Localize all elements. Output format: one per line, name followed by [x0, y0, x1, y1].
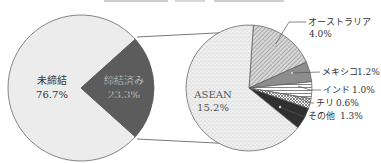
- pie-of-pie-chart: 未締結 76.7% 締結済み 23.3% ASEAN 15.2% オーストラリア…: [0, 0, 381, 163]
- label-australia-value: 4.0%: [309, 29, 332, 39]
- label-mexico: メキシコ 1.2%: [322, 67, 380, 77]
- svg-text:1.0%: 1.0%: [352, 85, 375, 95]
- title-remnant: [104, 0, 284, 2]
- svg-text:メキシコ: メキシコ: [322, 67, 358, 77]
- breakdown-pie: [186, 25, 312, 151]
- svg-text:インド: インド: [323, 85, 350, 95]
- svg-text:0.6%: 0.6%: [336, 98, 359, 108]
- label-australia-name: オーストラリア: [308, 17, 371, 27]
- label-unconcluded-value: 76.7%: [36, 89, 68, 100]
- svg-text:その他: その他: [308, 110, 335, 121]
- main-pie: [8, 15, 154, 161]
- label-unconcluded-name: 未締結: [37, 74, 67, 86]
- svg-text:1.3%: 1.3%: [340, 111, 363, 121]
- label-chile: チリ 0.6%: [316, 98, 359, 108]
- svg-text:1.2%: 1.2%: [357, 67, 380, 77]
- label-asean-name: ASEAN: [193, 89, 232, 100]
- svg-text:チリ: チリ: [316, 98, 334, 108]
- label-india: インド 1.0%: [323, 85, 375, 95]
- label-concluded-value: 23.3%: [108, 89, 140, 100]
- label-asean-value: 15.2%: [197, 102, 229, 113]
- label-other: その他 1.3%: [308, 110, 363, 121]
- label-concluded-name: 締結済み: [104, 74, 144, 86]
